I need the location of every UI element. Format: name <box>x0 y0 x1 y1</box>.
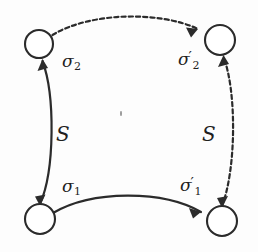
node-bottom-left[interactable] <box>25 204 55 234</box>
label-sigma-2-prime-subscript: 2 <box>193 59 200 72</box>
node-top-left[interactable] <box>25 30 53 58</box>
edge-right-dashed <box>222 57 233 206</box>
label-s-right: S <box>202 124 216 144</box>
label-sigma-2: σ2 <box>62 53 81 72</box>
label-s-left: S <box>56 124 70 144</box>
edge-top-dashed <box>53 17 199 35</box>
diagram-canvas: σ2 σ′2 σ1 σ′1 S S <box>0 0 258 252</box>
arrowhead-top-right <box>186 28 198 38</box>
arrowhead-right-up <box>218 55 229 67</box>
node-top-right[interactable] <box>205 25 235 55</box>
edge-bottom-solid <box>53 196 201 213</box>
label-sigma-2-prime-mark: ′ <box>189 48 192 66</box>
label-sigma-1-prime-base: σ <box>180 175 192 195</box>
arrowhead-left-up <box>38 59 49 71</box>
edge-left-solid <box>40 61 52 204</box>
label-sigma-1-prime: σ′1 <box>180 176 202 197</box>
diagram-svg <box>0 0 258 252</box>
scan-speck-artifact <box>120 111 122 116</box>
label-sigma-1-base: σ <box>62 176 74 196</box>
node-bottom-right[interactable] <box>207 206 237 236</box>
label-sigma-1-prime-mark: ′ <box>191 174 194 192</box>
label-sigma-1-subscript: 1 <box>74 185 81 198</box>
label-sigma-2-prime: σ′2 <box>178 50 200 71</box>
label-sigma-2-base: σ <box>62 51 74 71</box>
label-sigma-1-prime-subscript: 1 <box>195 185 202 198</box>
label-sigma-1: σ1 <box>62 178 81 197</box>
label-sigma-2-subscript: 2 <box>74 60 81 73</box>
label-sigma-2-prime-base: σ <box>178 49 190 69</box>
